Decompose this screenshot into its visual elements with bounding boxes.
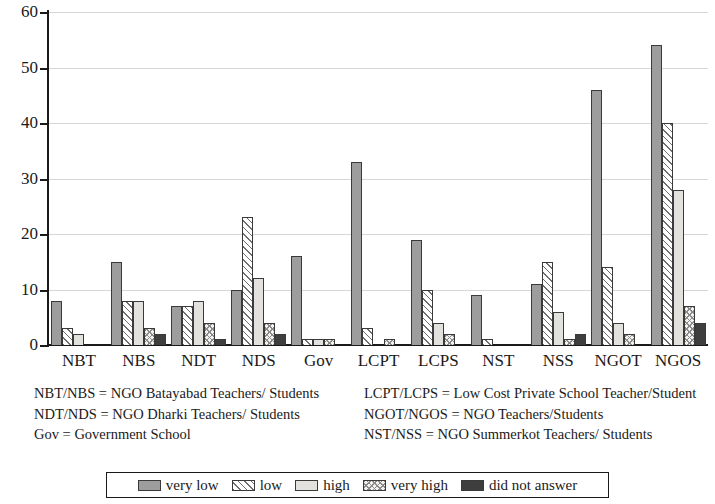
footnote-line: LCPT/LCPS = Low Cost Private School Teac…	[364, 383, 699, 404]
bar	[253, 278, 264, 345]
bar	[122, 301, 133, 345]
y-tick-mark	[40, 123, 48, 125]
x-tick-label: NST	[468, 350, 528, 372]
bar	[302, 339, 313, 345]
bar	[433, 323, 444, 345]
bar-group	[111, 12, 166, 345]
chart-legend: very lowlowhighvery highdid not answer	[106, 472, 609, 498]
x-tick-label: NSS	[528, 350, 588, 372]
bar	[602, 267, 613, 345]
x-tick-label: NGOT	[588, 350, 648, 372]
bar	[231, 290, 242, 346]
x-tick-label: LCPS	[408, 350, 468, 372]
legend-swatch	[232, 480, 255, 491]
bar	[324, 339, 335, 345]
bar	[613, 323, 624, 345]
bar	[662, 123, 673, 345]
legend-label: very low	[166, 478, 219, 493]
footnote-column-left: NBT/NBS = NGO Batayabad Teachers/ Studen…	[34, 383, 364, 445]
footnote-line: NBT/NBS = NGO Batayabad Teachers/ Studen…	[34, 383, 364, 404]
bars-layer	[49, 12, 708, 345]
bar	[193, 301, 204, 345]
bar	[291, 256, 302, 345]
bar	[684, 306, 695, 345]
bar	[144, 328, 155, 345]
bar	[422, 290, 433, 346]
legend-label: low	[260, 478, 283, 493]
y-tick-mark	[40, 179, 48, 181]
bar	[204, 323, 215, 345]
bar	[62, 328, 73, 345]
footnotes: NBT/NBS = NGO Batayabad Teachers/ Studen…	[34, 383, 699, 445]
bar	[111, 262, 122, 345]
bar	[313, 339, 324, 345]
y-tick-label: 60	[4, 3, 38, 20]
x-tick-label: NDT	[169, 350, 229, 372]
y-tick-label: 30	[4, 170, 38, 187]
legend-swatch	[461, 480, 484, 491]
bar	[264, 323, 275, 345]
bar	[482, 339, 493, 345]
bar	[591, 90, 602, 345]
y-tick-mark	[40, 345, 48, 347]
legend-label: did not answer	[489, 478, 577, 493]
bar	[542, 262, 553, 345]
bar	[553, 312, 564, 345]
bar	[384, 339, 395, 345]
y-tick-mark	[40, 234, 48, 236]
footnote-line: NGOT/NGOS = NGO Teachers/Students	[364, 404, 699, 425]
legend-entry[interactable]: high	[295, 478, 350, 493]
bar-group	[531, 12, 586, 345]
footnote-column-right: LCPT/LCPS = Low Cost Private School Teac…	[364, 383, 699, 445]
footnote-line: NST/NSS = NGO Summerkot Teachers/ Studen…	[364, 424, 699, 445]
bar	[673, 190, 684, 345]
legend-swatch	[363, 480, 386, 491]
x-tick-label: NGOS	[648, 350, 708, 372]
y-tick-label: 20	[4, 225, 38, 242]
bar	[362, 328, 373, 345]
bar-group	[171, 12, 226, 345]
bar-chart-figure: 0102030405060 NBTNBSNDTNDSGovLCPTLCPSNST…	[0, 0, 715, 504]
bar-group	[411, 12, 466, 345]
x-tick-label: Gov	[289, 350, 349, 372]
bar	[651, 45, 662, 345]
x-tick-label: NDS	[229, 350, 289, 372]
bar	[531, 284, 542, 345]
bar	[575, 334, 586, 345]
bar	[695, 323, 706, 345]
bar	[624, 334, 635, 345]
footnote-line: Gov = Government School	[34, 424, 364, 445]
bar	[564, 339, 575, 345]
bar-group	[351, 12, 406, 345]
bar	[242, 217, 253, 345]
bar	[275, 334, 286, 345]
bar	[51, 301, 62, 345]
bar-group	[471, 12, 526, 345]
y-tick-label: 50	[4, 59, 38, 76]
bar	[171, 306, 182, 345]
legend-entry[interactable]: low	[232, 478, 283, 493]
legend-label: very high	[391, 478, 448, 493]
bar	[182, 306, 193, 345]
footnote-line: NDT/NDS = NGO Dharki Teachers/ Students	[34, 404, 364, 425]
legend-entry[interactable]: did not answer	[461, 478, 577, 493]
y-tick-label: 40	[4, 114, 38, 131]
bar	[411, 240, 422, 345]
y-tick-mark	[40, 12, 48, 14]
bar-group	[51, 12, 106, 345]
bar	[444, 334, 455, 345]
bar	[351, 162, 362, 345]
bar-group	[291, 12, 346, 345]
legend-label: high	[323, 478, 350, 493]
x-tick-label: NBT	[49, 350, 109, 372]
y-tick-label: 10	[4, 281, 38, 298]
bar-group	[591, 12, 646, 345]
bar	[471, 295, 482, 345]
legend-entry[interactable]: very low	[138, 478, 219, 493]
bar	[73, 334, 84, 345]
y-axis-tick-labels: 0102030405060	[0, 0, 38, 360]
legend-entry[interactable]: very high	[363, 478, 448, 493]
x-axis-category-labels: NBTNBSNDTNDSGovLCPTLCPSNSTNSSNGOTNGOS	[49, 350, 708, 376]
x-tick-label: LCPT	[349, 350, 409, 372]
bar	[215, 339, 226, 345]
